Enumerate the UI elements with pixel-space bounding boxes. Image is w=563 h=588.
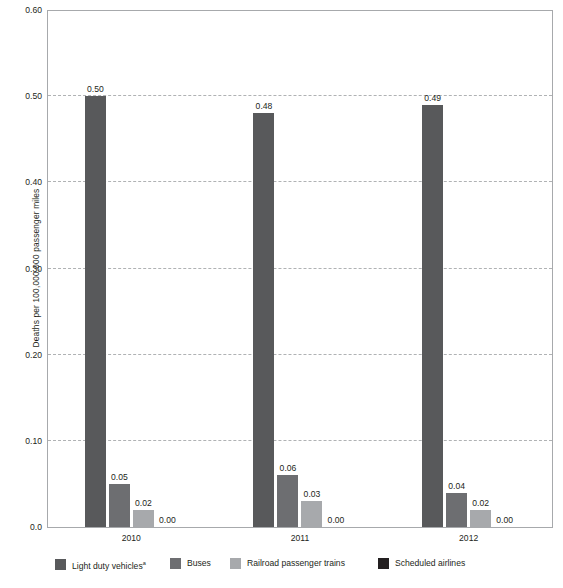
y-tick-label: 0.50 [0, 91, 42, 101]
y-tick-label: 0.40 [0, 177, 42, 187]
legend-item[interactable]: Scheduled airlines [378, 558, 465, 569]
bar: 0.00 [157, 10, 178, 527]
legend-swatch-icon [170, 558, 181, 569]
bar-value-label: 0.49 [424, 93, 441, 103]
legend-item[interactable]: Light duty vehiclesa [55, 558, 146, 572]
bar: 0.03 [301, 10, 322, 527]
bar-groups: 0.500.050.020.000.480.060.030.000.490.04… [47, 10, 553, 527]
bar: 0.05 [109, 10, 130, 527]
bar: 0.00 [325, 10, 346, 527]
bar-rect [277, 475, 298, 527]
legend-swatch-icon [378, 558, 389, 569]
x-tick-label-2012: 2012 [409, 533, 529, 543]
legend-label: Railroad passenger trains [247, 558, 345, 569]
legend-label: Buses [187, 558, 211, 569]
bar: 0.49 [422, 10, 443, 527]
bar-group: 0.480.060.030.00 [216, 10, 385, 527]
bar: 0.06 [277, 10, 298, 527]
bar: 0.02 [470, 10, 491, 527]
bar: 0.00 [494, 10, 515, 527]
bar: 0.04 [446, 10, 467, 527]
bar-value-label: 0.04 [448, 481, 465, 491]
bar-rect [133, 510, 154, 527]
bar-value-label: 0.48 [256, 101, 273, 111]
legend-item[interactable]: Railroad passenger trains [230, 558, 345, 569]
bar-value-label: 0.00 [496, 515, 513, 525]
y-tick-label: 0.30 [0, 264, 42, 274]
y-tick-label: 0.10 [0, 436, 42, 446]
y-tick-label: 0.0 [0, 522, 42, 532]
bar-value-label: 0.00 [328, 515, 345, 525]
legend-footnote-marker: a [143, 560, 146, 566]
x-tick-label-2011: 2011 [240, 533, 360, 543]
bar-value-label: 0.03 [304, 489, 321, 499]
bar: 0.02 [133, 10, 154, 527]
bar-rect [301, 501, 322, 527]
legend-label: Light duty vehiclesa [72, 558, 146, 572]
bar-rect [422, 105, 443, 527]
bar-group: 0.500.050.020.00 [47, 10, 216, 527]
y-tick-label: 0.60 [0, 5, 42, 15]
bar-rect [253, 113, 274, 527]
bar: 0.48 [253, 10, 274, 527]
bar-value-label: 0.02 [472, 498, 489, 508]
bar: 0.50 [85, 10, 106, 527]
bar-value-label: 0.05 [111, 472, 128, 482]
bar-rect [85, 96, 106, 527]
y-tick-label: 0.20 [0, 350, 42, 360]
legend: Light duty vehiclesaBusesRailroad passen… [0, 558, 563, 580]
bar-value-label: 0.50 [87, 84, 104, 94]
legend-swatch-icon [230, 558, 241, 569]
legend-swatch-icon [55, 559, 66, 570]
bar-chart: Deaths per 100,000,000 passenger miles 0… [0, 0, 563, 588]
legend-item[interactable]: Buses [170, 558, 211, 569]
x-tick-label-2010: 2010 [71, 533, 191, 543]
bar-rect [446, 493, 467, 527]
bar-value-label: 0.00 [159, 515, 176, 525]
bar-rect [109, 484, 130, 527]
bar-value-label: 0.02 [135, 498, 152, 508]
bar-rect [470, 510, 491, 527]
legend-label: Scheduled airlines [395, 558, 465, 569]
bar-group: 0.490.040.020.00 [384, 10, 553, 527]
bar-value-label: 0.06 [280, 463, 297, 473]
